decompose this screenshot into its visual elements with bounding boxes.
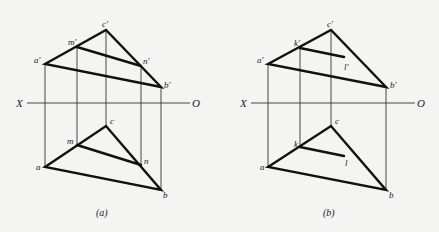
label-c-b: c	[335, 116, 339, 126]
caption-b: (b)	[323, 207, 335, 219]
projection-diagram: X O a' m' c' n' b' a m c n b	[0, 0, 439, 232]
label-m: m	[67, 136, 74, 146]
axis-label-x-b: X	[239, 97, 248, 109]
label-c-prime-b: c'	[327, 19, 334, 29]
label-a-b: a	[260, 162, 265, 172]
panel-a: X O a' m' c' n' b' a m c n b	[15, 19, 200, 219]
panel-b: X O a' k' c' l' b' a k c l b (b)	[239, 19, 425, 219]
label-n-prime: n'	[143, 56, 151, 66]
line-k-l-top	[300, 147, 344, 156]
label-l-prime: l'	[344, 62, 350, 72]
label-b-prime-b: b'	[390, 80, 398, 90]
axis-label-o-b: O	[417, 97, 425, 109]
label-m-prime: m'	[68, 37, 77, 47]
axis-label-x-a: X	[15, 97, 24, 109]
label-n: n	[144, 156, 149, 166]
label-a: a	[36, 162, 41, 172]
label-a-prime: a'	[34, 55, 42, 65]
line-k-l-front	[300, 48, 344, 57]
caption-a: (a)	[96, 207, 108, 219]
label-b: b	[163, 190, 168, 200]
label-b-b: b	[389, 190, 394, 200]
label-b-prime: b'	[164, 80, 172, 90]
label-a-prime-b: a'	[257, 55, 265, 65]
label-c-prime: c'	[102, 19, 109, 29]
front-view-triangle-b	[268, 30, 386, 87]
label-c: c	[110, 116, 114, 126]
top-view-triangle-b	[268, 126, 386, 190]
label-l: l	[345, 158, 348, 168]
axis-label-o-a: O	[192, 97, 200, 109]
